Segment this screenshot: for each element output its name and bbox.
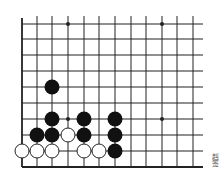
white-stone: [77, 144, 91, 158]
black-stone: [45, 80, 60, 95]
black-stone: [77, 128, 92, 143]
diagram-caption: 赳签: [209, 153, 219, 167]
star-point: [66, 117, 70, 121]
go-board: [0, 0, 221, 181]
white-stone: [61, 128, 75, 142]
go-diagram: 赳签: [0, 0, 221, 181]
star-point: [160, 117, 164, 121]
black-stone: [108, 144, 123, 159]
white-stone: [92, 144, 106, 158]
black-stone: [45, 128, 60, 143]
white-stone: [45, 144, 59, 158]
star-point: [160, 22, 164, 26]
star-point: [66, 22, 70, 26]
black-stone: [77, 112, 92, 127]
black-stone: [108, 128, 123, 143]
black-stone: [108, 112, 123, 127]
black-stone: [45, 112, 60, 127]
white-stone: [30, 144, 44, 158]
white-stone: [15, 144, 29, 158]
black-stone: [30, 128, 45, 143]
